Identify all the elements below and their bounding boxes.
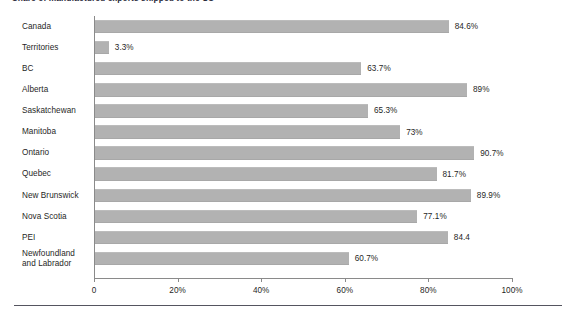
bar bbox=[95, 62, 361, 76]
bar-row: Canada84.6% bbox=[0, 16, 573, 37]
bar-value-label: 89.9% bbox=[477, 191, 500, 200]
bar-row: Alberta89% bbox=[0, 79, 573, 100]
bar-row: Quebec81.7% bbox=[0, 164, 573, 185]
bar-track: 90.7% bbox=[95, 143, 513, 164]
bar bbox=[95, 252, 349, 266]
bar-track: 63.7% bbox=[95, 58, 513, 79]
x-axis-tick-label: 100% bbox=[501, 286, 522, 295]
bar bbox=[95, 83, 467, 97]
bar bbox=[95, 104, 368, 118]
x-axis-tick bbox=[512, 278, 513, 282]
bar bbox=[95, 167, 437, 181]
category-label: New Brunswick bbox=[22, 191, 90, 201]
bar-row: Newfoundland and Labrador60.7% bbox=[0, 248, 573, 269]
x-axis-line bbox=[94, 278, 513, 279]
bar-value-label: 89% bbox=[473, 85, 490, 94]
bar bbox=[95, 146, 474, 160]
bar-row: Manitoba73% bbox=[0, 121, 573, 142]
bar-value-label: 3.3% bbox=[115, 43, 134, 52]
bar-row: Ontario90.7% bbox=[0, 143, 573, 164]
category-label: Canada bbox=[22, 22, 90, 32]
bar-track: 89% bbox=[95, 79, 513, 100]
bar-track: 73% bbox=[95, 121, 513, 142]
bar bbox=[95, 20, 449, 34]
bar bbox=[95, 189, 471, 203]
bar-value-label: 77.1% bbox=[423, 212, 446, 221]
x-axis-tick bbox=[94, 278, 95, 282]
bar-value-label: 84.6% bbox=[455, 22, 478, 31]
bar bbox=[95, 125, 400, 139]
bottom-divider bbox=[14, 305, 562, 306]
category-label: Quebec bbox=[22, 169, 90, 179]
plot-area: Canada84.6%Territories3.3%BC63.7%Alberta… bbox=[0, 16, 573, 278]
x-axis-tick bbox=[261, 278, 262, 282]
category-label: Nova Scotia bbox=[22, 212, 90, 222]
x-axis-tick-label: 20% bbox=[169, 286, 186, 295]
category-label: PEI bbox=[22, 233, 90, 243]
bar-track: 65.3% bbox=[95, 100, 513, 121]
x-axis: 020%40%60%80%100% bbox=[0, 278, 573, 304]
bar-track: 60.7% bbox=[95, 248, 513, 269]
x-axis-tick bbox=[178, 278, 179, 282]
bar-rows: Canada84.6%Territories3.3%BC63.7%Alberta… bbox=[0, 16, 573, 269]
chart-title: Share of manufactured exports shipped to… bbox=[12, 0, 214, 3]
x-axis-tick bbox=[428, 278, 429, 282]
category-label: BC bbox=[22, 64, 90, 74]
bar-value-label: 60.7% bbox=[355, 254, 378, 263]
bar bbox=[95, 231, 448, 245]
bar-value-label: 63.7% bbox=[367, 64, 390, 73]
bar-row: BC63.7% bbox=[0, 58, 573, 79]
bar-track: 77.1% bbox=[95, 206, 513, 227]
bar-value-label: 73% bbox=[406, 128, 423, 137]
x-axis-tick-label: 80% bbox=[420, 286, 437, 295]
x-axis-tick-label: 0 bbox=[92, 286, 97, 295]
category-label: Saskatchewan bbox=[22, 106, 90, 116]
bar-track: 84.6% bbox=[95, 16, 513, 37]
bar bbox=[95, 41, 109, 55]
x-axis-tick-label: 60% bbox=[337, 286, 354, 295]
bar-track: 81.7% bbox=[95, 164, 513, 185]
bar-value-label: 81.7% bbox=[443, 170, 466, 179]
bar-row: Territories3.3% bbox=[0, 37, 573, 58]
bar bbox=[95, 210, 417, 224]
bar-row: PEI84.4 bbox=[0, 227, 573, 248]
category-label: Alberta bbox=[22, 85, 90, 95]
chart-page: Share of manufactured exports shipped to… bbox=[0, 0, 573, 318]
category-label: Ontario bbox=[22, 148, 90, 158]
x-axis-tick bbox=[345, 278, 346, 282]
bar-row: New Brunswick89.9% bbox=[0, 185, 573, 206]
category-label: Newfoundland and Labrador bbox=[22, 249, 90, 268]
x-axis-tick-label: 40% bbox=[253, 286, 270, 295]
category-label: Manitoba bbox=[22, 127, 90, 137]
bar-row: Saskatchewan65.3% bbox=[0, 100, 573, 121]
bar-row: Nova Scotia77.1% bbox=[0, 206, 573, 227]
category-label: Territories bbox=[22, 43, 90, 53]
bar-value-label: 65.3% bbox=[374, 106, 397, 115]
bar-value-label: 90.7% bbox=[480, 149, 503, 158]
bar-track: 3.3% bbox=[95, 37, 513, 58]
bar-track: 84.4 bbox=[95, 227, 513, 248]
bar-value-label: 84.4 bbox=[454, 233, 470, 242]
bar-track: 89.9% bbox=[95, 185, 513, 206]
